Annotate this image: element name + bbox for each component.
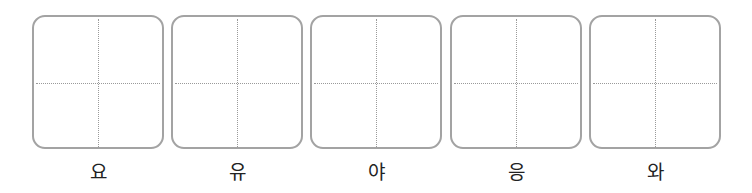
syllable-label: 야 [310,160,442,184]
vertical-guide-line [376,19,377,147]
writing-box[interactable] [32,15,164,149]
writing-box[interactable] [450,15,582,149]
writing-box[interactable] [171,15,303,149]
syllable-label: 유 [171,160,303,184]
practice-cell-3 [310,15,442,149]
syllable-label: 응 [450,160,582,184]
syllable-label: 요 [32,160,164,184]
vertical-guide-line [237,19,238,147]
writing-box[interactable] [310,15,442,149]
practice-cell-2 [171,15,303,149]
practice-cell-4 [450,15,582,149]
vertical-guide-line [655,19,656,147]
vertical-guide-line [98,19,99,147]
vertical-guide-line [516,19,517,147]
practice-cell-1 [32,15,164,149]
syllable-label: 와 [589,160,721,184]
practice-cell-5 [589,15,721,149]
writing-box[interactable] [589,15,721,149]
